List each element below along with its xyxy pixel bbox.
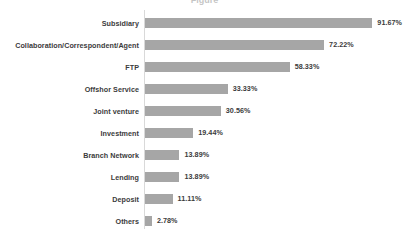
bar-track xyxy=(145,216,152,226)
bar-track xyxy=(145,40,324,50)
chart-title-text: Figure xyxy=(191,0,219,5)
bar-value-label: 91.67% xyxy=(377,18,402,28)
bar-category-label: Subsidiary xyxy=(0,19,139,28)
bar-fill xyxy=(145,150,179,160)
bar-value-label: 58.33% xyxy=(295,62,320,72)
bar-track xyxy=(145,18,372,28)
bar-category-label: Joint venture xyxy=(0,107,139,116)
bar-fill xyxy=(145,62,290,72)
bar-row: Others2.78% xyxy=(0,210,409,232)
bar-row: Lending13.89% xyxy=(0,166,409,188)
bar-track xyxy=(145,128,193,138)
bar-category-label: Collaboration/Correspondent/Agent xyxy=(0,41,139,50)
bar-track xyxy=(145,84,228,94)
bar-value-label: 19.44% xyxy=(198,128,223,138)
bar-row: Joint venture30.56% xyxy=(0,100,409,122)
bar-value-label: 72.22% xyxy=(329,40,354,50)
bar-value-label: 11.11% xyxy=(178,194,202,204)
bar-row: Investment19.44% xyxy=(0,122,409,144)
bar-value-label: 33.33% xyxy=(233,84,258,94)
bar-row: Subsidiary91.67% xyxy=(0,12,409,34)
bar-row: Collaboration/Correspondent/Agent72.22% xyxy=(0,34,409,56)
plot-area: Subsidiary91.67%Collaboration/Correspond… xyxy=(0,6,409,234)
horizontal-bar-chart: Figure Subsidiary91.67%Collaboration/Cor… xyxy=(0,0,409,234)
bar-value-label: 13.89% xyxy=(184,172,209,182)
bar-row: Deposit11.11% xyxy=(0,188,409,210)
bar-category-label: Investment xyxy=(0,129,139,138)
bar-category-label: Deposit xyxy=(0,195,139,204)
bar-track xyxy=(145,62,290,72)
bar-value-label: 30.56% xyxy=(226,106,251,116)
bar-category-label: Others xyxy=(0,217,139,226)
bar-row: FTP58.33% xyxy=(0,56,409,78)
bar-fill xyxy=(145,128,193,138)
bar-row: Branch Network13.89% xyxy=(0,144,409,166)
bar-fill xyxy=(145,194,173,204)
bar-row: Offshor Service33.33% xyxy=(0,78,409,100)
bar-fill xyxy=(145,18,372,28)
bar-fill xyxy=(145,106,221,116)
bar-fill xyxy=(145,172,179,182)
bar-fill xyxy=(145,216,152,226)
bar-value-label: 2.78% xyxy=(157,216,178,226)
bar-track xyxy=(145,172,179,182)
bar-track xyxy=(145,194,173,204)
bar-category-label: Branch Network xyxy=(0,151,139,160)
bar-track xyxy=(145,106,221,116)
bar-fill xyxy=(145,40,324,50)
bar-fill xyxy=(145,84,228,94)
bar-track xyxy=(145,150,179,160)
bar-category-label: Offshor Service xyxy=(0,85,139,94)
bar-category-label: Lending xyxy=(0,173,139,182)
bar-value-label: 13.89% xyxy=(184,150,209,160)
bar-category-label: FTP xyxy=(0,63,139,72)
